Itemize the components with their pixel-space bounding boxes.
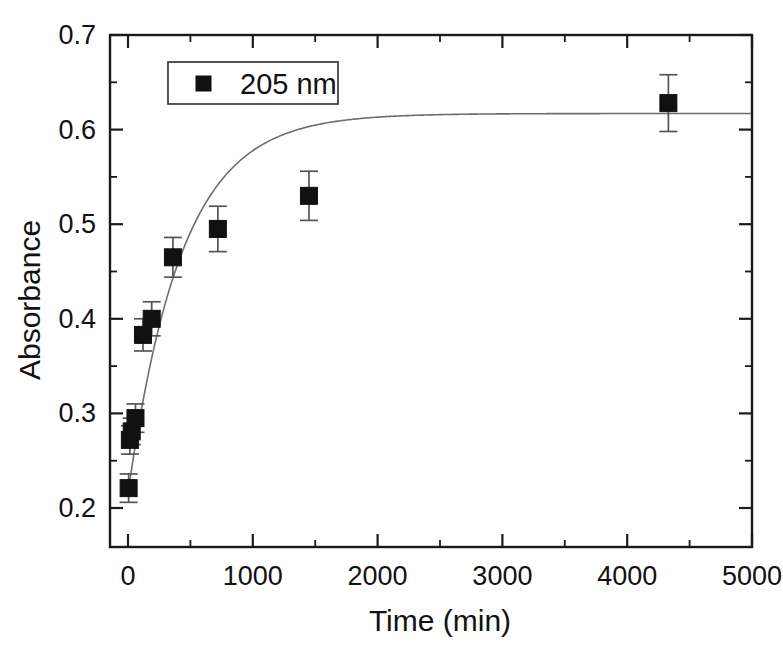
data-point-marker — [143, 310, 160, 327]
data-point-marker — [134, 326, 151, 343]
y-tick-label: 0.7 — [58, 20, 96, 50]
data-point-marker — [120, 480, 137, 497]
x-tick-label: 3000 — [472, 561, 532, 591]
legend-marker-icon — [196, 76, 211, 91]
figure-container: 010002000300040005000 0.20.30.40.50.60.7… — [0, 0, 783, 647]
y-tick-label: 0.5 — [58, 209, 96, 239]
y-tick-label: 0.3 — [58, 398, 96, 428]
x-tick-label: 1000 — [223, 561, 283, 591]
y-tick-label: 0.6 — [58, 115, 96, 145]
data-point-marker — [164, 249, 181, 266]
absorbance-vs-time-chart: 010002000300040005000 0.20.30.40.50.60.7… — [0, 0, 783, 647]
data-point-marker — [127, 410, 144, 427]
x-axis-title: Time (min) — [369, 604, 511, 637]
x-tick-label: 4000 — [597, 561, 657, 591]
x-tick-label: 2000 — [348, 561, 408, 591]
data-point-marker — [209, 220, 226, 237]
y-tick-label: 0.4 — [58, 304, 96, 334]
data-point-marker — [660, 95, 677, 112]
y-tick-label: 0.2 — [58, 493, 96, 523]
legend[interactable]: 205 nm — [168, 62, 338, 104]
x-tick-label: 0 — [120, 561, 135, 591]
y-axis-title: Absorbance — [13, 220, 46, 380]
legend-entry-label: 205 nm — [240, 68, 337, 100]
data-point-marker — [300, 187, 317, 204]
x-tick-label: 5000 — [722, 561, 782, 591]
